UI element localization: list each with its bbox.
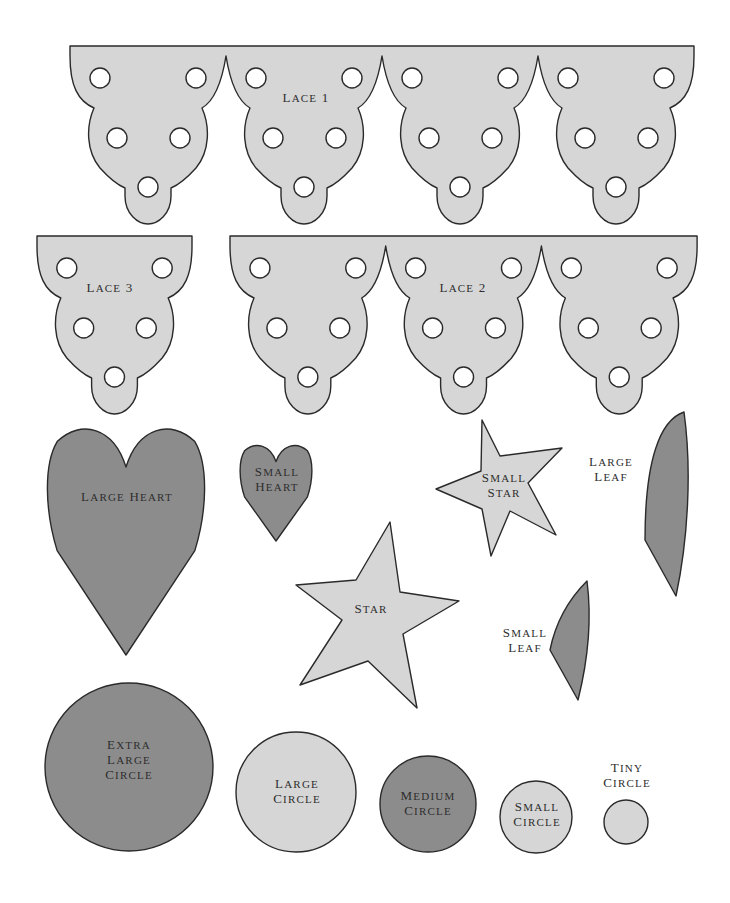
star-shape xyxy=(296,522,459,708)
lace-hole xyxy=(346,258,366,278)
lace-3: LACE 3 xyxy=(37,236,192,414)
star-label: STAR xyxy=(354,601,387,616)
large-heart-label: LARGE HEART xyxy=(81,489,173,504)
extra-large-circle-label-line: CIRCLE xyxy=(105,767,153,782)
lace-hole xyxy=(330,318,350,338)
small-heart-shape xyxy=(240,446,312,541)
lace-3-label: LACE 3 xyxy=(87,280,134,295)
large-leaf-label-line: LEAF xyxy=(594,469,628,484)
lace-hole xyxy=(250,258,270,278)
extra-large-circle-label-line: LARGE xyxy=(107,752,151,767)
lace-3-label-line: LACE 3 xyxy=(87,280,134,295)
lace-hole xyxy=(402,68,422,88)
shape-templates: LARGE HEARTSMALLHEARTSMALLSTARSTARLARGEL… xyxy=(45,412,688,853)
lace-hole xyxy=(186,68,206,88)
large-circle: LARGECIRCLE xyxy=(236,732,356,852)
lace-templates: LACE 1LACE 2LACE 3 xyxy=(37,46,697,414)
small-star-label-line: STAR xyxy=(487,485,520,500)
lace-hole xyxy=(657,258,677,278)
small-leaf-shape xyxy=(550,581,589,700)
lace-hole xyxy=(485,318,505,338)
large-heart-shape xyxy=(47,429,204,655)
tiny-circle-label-line: CIRCLE xyxy=(603,775,651,790)
small-circle: SMALLCIRCLE xyxy=(500,781,572,853)
lace-hole xyxy=(454,367,474,387)
lace-hole xyxy=(423,318,443,338)
pattern-sheet: LACE 1LACE 2LACE 3 LARGE HEARTSMALLHEART… xyxy=(0,0,730,903)
lace-hole xyxy=(406,258,426,278)
lace-hole xyxy=(105,367,125,387)
extra-large-circle-label-line: EXTRA xyxy=(107,737,151,752)
lace-hole xyxy=(138,177,158,197)
medium-circle-shape xyxy=(380,756,476,852)
lace-hole xyxy=(501,258,521,278)
small-star-label-line: SMALL xyxy=(482,470,526,485)
lace-hole xyxy=(558,68,578,88)
lace-hole xyxy=(482,128,502,148)
lace-hole xyxy=(450,177,470,197)
tiny-circle-label: TINYCIRCLE xyxy=(603,760,651,790)
lace-hole xyxy=(263,128,283,148)
small-heart-label-line: HEART xyxy=(255,479,298,494)
lace-hole xyxy=(152,258,172,278)
large-leaf-shape xyxy=(645,412,688,596)
small-leaf-label-line: LEAF xyxy=(508,640,542,655)
lace-1: LACE 1 xyxy=(70,46,694,224)
lace-1-outline xyxy=(70,46,694,224)
small-circle-label-line: CIRCLE xyxy=(513,814,561,829)
large-leaf-label-line: LARGE xyxy=(589,454,633,469)
large-circle-label-line: CIRCLE xyxy=(273,791,321,806)
lace-hole xyxy=(654,68,674,88)
lace-hole xyxy=(641,318,661,338)
lace-hole xyxy=(267,318,287,338)
lace-hole xyxy=(606,177,626,197)
extra-large-circle-shape xyxy=(45,683,213,851)
small-leaf-label-line: SMALL xyxy=(503,625,547,640)
large-circle-label-line: LARGE xyxy=(275,776,319,791)
small-circle-label-line: SMALL xyxy=(515,799,559,814)
small-leaf: SMALLLEAF xyxy=(503,581,589,700)
medium-circle: MEDIUMCIRCLE xyxy=(380,756,476,852)
medium-circle-label-line: MEDIUM xyxy=(401,788,456,803)
lace-1-label-line: LACE 1 xyxy=(283,90,330,105)
star: STAR xyxy=(296,522,459,708)
lace-hole xyxy=(419,128,439,148)
lace-2-label: LACE 2 xyxy=(440,280,487,295)
small-heart-label-line: SMALL xyxy=(255,464,299,479)
large-leaf: LARGELEAF xyxy=(589,412,688,596)
tiny-circle: TINYCIRCLE xyxy=(603,760,651,844)
lace-hole xyxy=(90,68,110,88)
extra-large-circle: EXTRALARGECIRCLE xyxy=(45,683,213,851)
lace-hole xyxy=(294,177,314,197)
large-heart: LARGE HEART xyxy=(47,429,204,655)
lace-hole xyxy=(246,68,266,88)
star-label-line: STAR xyxy=(354,601,387,616)
small-leaf-label: SMALLLEAF xyxy=(503,625,547,655)
small-star: SMALLSTAR xyxy=(436,420,562,556)
large-circle-shape xyxy=(236,732,356,852)
medium-circle-label-line: CIRCLE xyxy=(404,803,452,818)
large-leaf-label: LARGELEAF xyxy=(589,454,633,484)
lace-hole xyxy=(74,318,94,338)
extra-large-circle-label: EXTRALARGECIRCLE xyxy=(105,737,153,782)
lace-2-label-line: LACE 2 xyxy=(440,280,487,295)
lace-hole xyxy=(298,367,318,387)
lace-hole xyxy=(342,68,362,88)
small-heart: SMALLHEART xyxy=(240,446,312,541)
lace-hole xyxy=(57,258,77,278)
tiny-circle-shape xyxy=(604,800,648,844)
lace-hole xyxy=(326,128,346,148)
lace-hole xyxy=(136,318,156,338)
lace-hole xyxy=(498,68,518,88)
lace-hole xyxy=(170,128,190,148)
large-heart-label-line: LARGE HEART xyxy=(81,489,173,504)
lace-2: LACE 2 xyxy=(230,236,697,414)
lace-hole xyxy=(107,128,127,148)
tiny-circle-label-line: TINY xyxy=(611,760,643,775)
lace-hole xyxy=(638,128,658,148)
lace-hole xyxy=(575,128,595,148)
lace-hole xyxy=(578,318,598,338)
lace-1-label: LACE 1 xyxy=(283,90,330,105)
lace-hole xyxy=(609,367,629,387)
lace-hole xyxy=(561,258,581,278)
